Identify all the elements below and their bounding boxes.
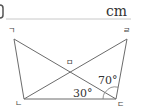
diagonal-a-c — [14, 39, 116, 99]
angle-label-30: 30° — [73, 87, 93, 100]
geometry-problem: cm ㄱ ㄴ ㄷ ㄹ ㅁ 30° 70° — [0, 0, 144, 112]
vertex-label-e: ㅁ — [66, 58, 73, 67]
vertex-label-b: ㄴ — [15, 99, 22, 108]
figure-canvas: cm ㄱ ㄴ ㄷ ㄹ ㅁ 30° 70° — [0, 0, 144, 112]
vertex-label-a: ㄱ — [8, 26, 15, 35]
angle-arc-70 — [106, 87, 119, 92]
vertex-label-c: ㄷ — [117, 100, 124, 109]
side-c-d — [116, 39, 127, 99]
number-marker-partial — [0, 5, 3, 18]
angle-arc-30 — [103, 93, 105, 99]
vertex-label-d: ㄹ — [123, 26, 130, 35]
side-a-b — [14, 39, 24, 99]
angle-label-70: 70° — [98, 74, 118, 87]
unit-label: cm — [106, 3, 127, 19]
